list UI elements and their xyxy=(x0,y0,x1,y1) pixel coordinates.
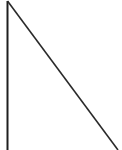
figure-background xyxy=(0,0,122,150)
line-figure-svg xyxy=(0,0,122,150)
figure-canvas xyxy=(0,0,122,150)
